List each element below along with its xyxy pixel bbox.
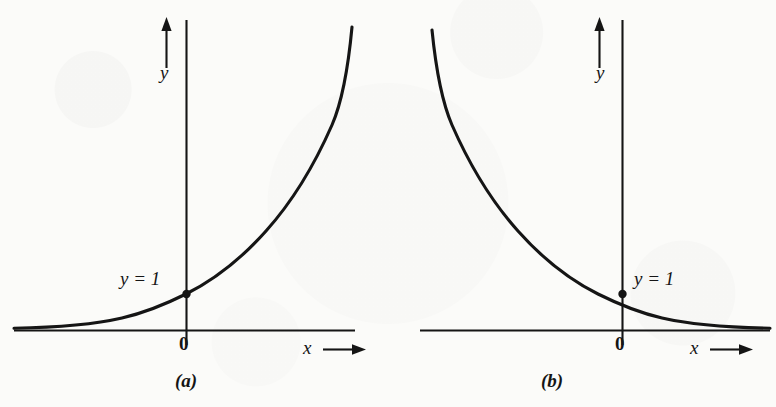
- panel-a-graph: [0, 0, 388, 407]
- intercept-point-b: [618, 290, 626, 298]
- chart-panel-b: y x 0 y = 1 (b): [388, 0, 776, 407]
- exponential-growth-curve-a: [14, 27, 352, 328]
- origin-label-a: 0: [179, 333, 189, 355]
- y-axis-label-b: y: [596, 62, 604, 84]
- x-axis-arrow-head-a: [352, 344, 366, 355]
- intercept-label-b: y = 1: [634, 268, 674, 290]
- panel-b-graph: [388, 0, 776, 407]
- intercept-label-a: y = 1: [120, 268, 160, 290]
- x-axis-arrow-head-b: [739, 344, 753, 355]
- chart-panel-a: y x 0 y = 1 (a): [0, 0, 388, 407]
- origin-label-b: 0: [615, 333, 625, 355]
- intercept-point-a: [182, 290, 190, 298]
- y-axis-label-a: y: [160, 62, 168, 84]
- y-axis-arrow-head-a: [161, 17, 171, 31]
- panel-caption-b: (b): [541, 370, 563, 392]
- x-axis-label-b: x: [690, 337, 698, 359]
- figure-root: y x 0 y = 1 (a) y x 0 y = 1 (b: [0, 0, 776, 407]
- x-axis-label-a: x: [303, 337, 311, 359]
- y-axis-arrow-head-b: [594, 17, 604, 31]
- panel-caption-a: (a): [175, 370, 197, 392]
